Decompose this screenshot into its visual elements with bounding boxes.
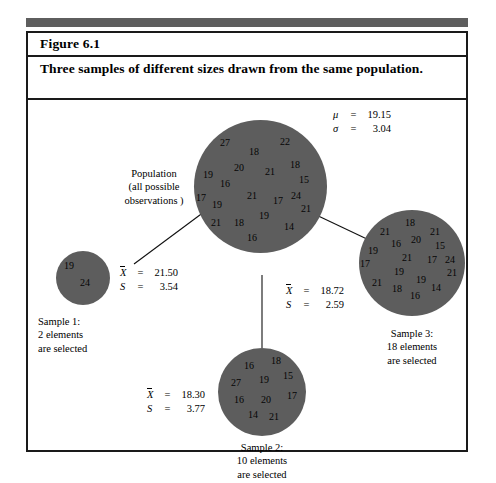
top-rule-bar <box>26 18 468 27</box>
sample2-observation-value: 16 <box>244 361 254 371</box>
figure-canvas: 2718222019211816151721172419211921181416… <box>28 100 466 450</box>
sample3-observation-value: 15 <box>435 241 445 251</box>
population-observation-value: 21 <box>301 204 311 214</box>
sample2-observation-value: 16 <box>234 395 244 405</box>
sample2-observation-value: 15 <box>283 371 293 381</box>
sample3-observation-value: 18 <box>405 218 415 228</box>
sample3-observation-value: 19 <box>416 275 426 285</box>
sample2-observation-value: 19 <box>259 375 269 385</box>
sample2-mean-row: X = 18.30 <box>147 388 207 402</box>
figure-caption: Three samples of different sizes drawn f… <box>40 60 440 78</box>
mu-value: 19.15 <box>361 108 393 122</box>
population-observation-value: 20 <box>234 163 244 173</box>
population-observation-value: 18 <box>249 147 259 157</box>
sample3-observation-value: 18 <box>392 284 402 294</box>
sample2-mean-symbol: X <box>147 388 153 402</box>
figure-box: Figure 6.1 Three samples of different si… <box>26 31 468 452</box>
sample2-observation-value: 21 <box>269 412 279 422</box>
population-parameters: μ = 19.15 σ = 3.04 <box>333 108 393 135</box>
sample1-sd-row: S = 3.54 <box>120 280 180 294</box>
sample2-values: 16182719151620171421 <box>218 348 306 436</box>
sample2-mean-equals: = <box>162 388 175 402</box>
sample1-caption-line1: Sample 1: <box>38 315 87 328</box>
sample3-statistics: X = 18.72 S = 2.59 <box>286 284 346 311</box>
sample3-values: 182121162019152117172419211921181416 <box>359 210 465 316</box>
sample3-observation-value: 16 <box>410 291 420 301</box>
sample3-sd-symbol: S <box>286 298 301 312</box>
sample2-sd-symbol: S <box>147 402 162 416</box>
figure-label: Figure 6.1 <box>40 36 100 52</box>
sample3-mean-symbol: X <box>286 284 292 298</box>
sample3-observation-value: 21 <box>380 227 390 237</box>
sample2-observation-value: 20 <box>261 395 271 405</box>
population-label-line1: Population <box>110 167 198 180</box>
sample3-caption: Sample 3: 18 elements are selected <box>358 327 466 367</box>
sample2-caption-line1: Sample 2: <box>208 441 316 454</box>
sample2-observation-value: 18 <box>271 356 281 366</box>
sample1-mean-row: X = 21.50 <box>120 266 180 280</box>
sample3-mean-row: X = 18.72 <box>286 284 346 298</box>
figure-caption-band: Three samples of different sizes drawn f… <box>28 57 466 100</box>
population-label: Population (all possible observations ) <box>110 167 198 207</box>
figure-title-band: Figure 6.1 <box>28 33 466 57</box>
sample1-mean-equals: = <box>135 266 148 280</box>
sample1-sd-equals: = <box>135 280 148 294</box>
sample3-caption-line2: 18 elements <box>358 340 466 353</box>
sample3-mean-value: 18.72 <box>314 284 346 298</box>
population-label-line3: observations ) <box>110 194 198 207</box>
population-observation-value: 19 <box>259 211 269 221</box>
sample3-caption-line3: are selected <box>358 354 466 367</box>
sample3-observation-value: 21 <box>372 278 382 288</box>
sample1-sd-symbol: S <box>120 280 135 294</box>
sample2-caption: Sample 2: 10 elements are selected <box>208 441 316 481</box>
population-observation-value: 18 <box>290 160 300 170</box>
sample3-observation-value: 20 <box>411 235 421 245</box>
population-sigma-row: σ = 3.04 <box>333 122 393 136</box>
sigma-equals: = <box>348 122 361 136</box>
population-observation-value: 21 <box>247 191 257 201</box>
sample1-sd-value: 3.54 <box>148 280 180 294</box>
population-values: 2718222019211816151721172419211921181416 <box>194 120 327 253</box>
population-mu-row: μ = 19.15 <box>333 108 393 122</box>
population-observation-value: 16 <box>220 179 230 189</box>
sample3-observation-value: 21 <box>402 253 412 263</box>
sample2-observation-value: 14 <box>248 410 258 420</box>
sample2-mean-value: 18.30 <box>175 388 207 402</box>
population-observation-value: 18 <box>234 218 244 228</box>
sample2-observation-value: 17 <box>287 391 297 401</box>
sample3-observation-value: 14 <box>431 283 441 293</box>
sample3-observation-value: 17 <box>427 255 437 265</box>
sample3-observation-value: 21 <box>447 268 457 278</box>
sample2-caption-line2: 10 elements <box>208 454 316 467</box>
sample3-sd-row: S = 2.59 <box>286 298 346 312</box>
sample1-observation-value: 19 <box>64 261 74 271</box>
sample2-caption-line3: are selected <box>208 468 316 481</box>
sample3-observation-value: 21 <box>430 227 440 237</box>
population-observation-value: 15 <box>299 175 309 185</box>
mu-equals: = <box>348 108 361 122</box>
sigma-symbol: σ <box>333 122 348 136</box>
sample2-sd-value: 3.77 <box>175 402 207 416</box>
population-observation-value: 27 <box>220 138 230 148</box>
sample1-mean-symbol: X <box>120 266 126 280</box>
sample2-sd-equals: = <box>162 402 175 416</box>
population-observation-value: 22 <box>280 137 290 147</box>
sample3-sd-equals: = <box>301 298 314 312</box>
sample3-observation-value: 16 <box>391 239 401 249</box>
sample1-statistics: X = 21.50 S = 3.54 <box>120 266 180 293</box>
population-observation-value: 19 <box>203 170 213 180</box>
sample1-caption-line3: are selected <box>38 342 87 355</box>
sample2-observation-value: 27 <box>231 378 241 388</box>
sample2-statistics: X = 18.30 S = 3.77 <box>147 388 207 415</box>
population-observation-value: 24 <box>291 191 301 201</box>
sample1-caption-line2: 2 elements <box>38 328 87 341</box>
sigma-value: 3.04 <box>361 122 393 136</box>
sample2-sd-row: S = 3.77 <box>147 402 207 416</box>
population-observation-value: 19 <box>212 200 222 210</box>
population-observation-value: 16 <box>247 233 257 243</box>
population-observation-value: 21 <box>265 167 275 177</box>
sample1-values: 1924 <box>56 251 110 305</box>
population-observation-value: 21 <box>211 218 221 228</box>
sample1-caption: Sample 1: 2 elements are selected <box>38 315 87 355</box>
mu-symbol: μ <box>333 108 348 122</box>
